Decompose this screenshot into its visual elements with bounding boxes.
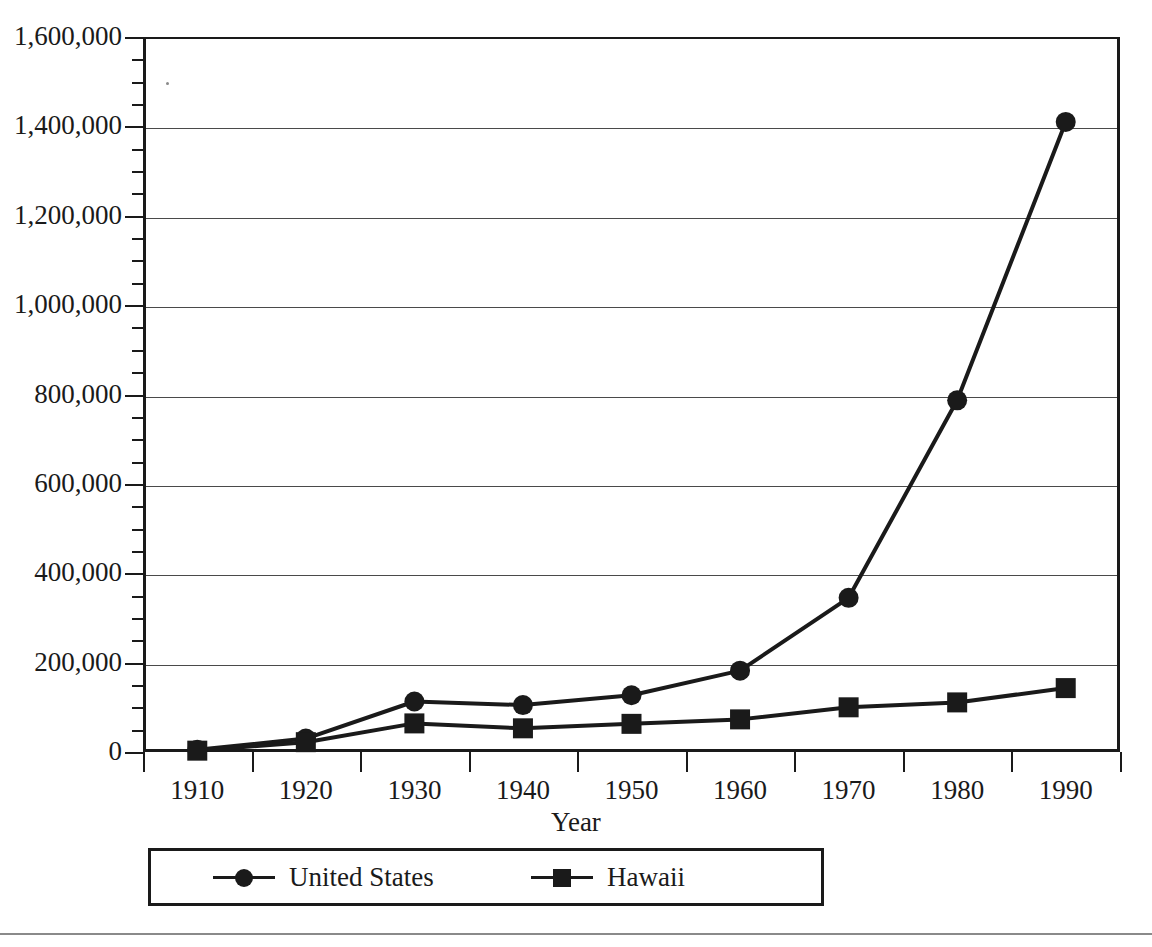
y-axis-minor-tick — [132, 238, 144, 240]
y-axis-minor-tick — [132, 104, 144, 106]
gridline — [146, 486, 1117, 487]
y-axis-minor-tick — [132, 596, 144, 598]
y-axis-minor-tick — [132, 618, 144, 620]
y-axis-minor-tick — [132, 529, 144, 531]
x-axis-tick — [794, 752, 796, 772]
y-axis-minor-tick — [132, 193, 144, 195]
legend-label: Hawaii — [607, 862, 685, 892]
y-axis-tick-label: 1,200,000 — [0, 202, 122, 229]
legend-label: United States — [289, 862, 434, 892]
gridline — [146, 575, 1117, 576]
y-axis-minor-tick — [132, 82, 144, 84]
y-axis-tick-label: 0 — [0, 738, 122, 765]
x-axis-tick — [1011, 752, 1013, 772]
x-axis-tick — [686, 752, 688, 772]
x-axis-tick — [1120, 752, 1122, 772]
x-axis-tick — [469, 752, 471, 772]
x-axis-title: Year — [0, 806, 1152, 838]
gridline — [146, 665, 1117, 666]
y-axis-major-tick — [125, 216, 144, 218]
scan-speck — [166, 82, 169, 85]
y-axis-major-tick — [125, 126, 144, 128]
x-axis-tick-label: 1940 — [469, 775, 578, 805]
x-axis-tick-label: 1920 — [252, 775, 361, 805]
gridline — [146, 218, 1117, 219]
page-bottom-rule — [0, 933, 1152, 935]
y-axis-major-tick — [125, 752, 144, 754]
y-axis-minor-tick — [132, 149, 144, 151]
x-axis-tick — [903, 752, 905, 772]
plot-area — [143, 37, 1120, 752]
x-axis-tick — [143, 752, 145, 772]
y-axis-major-tick — [125, 395, 144, 397]
gridline — [146, 307, 1117, 308]
x-axis-tick-label: 1960 — [686, 775, 795, 805]
square-marker-icon — [531, 865, 593, 889]
y-axis-tick-label: 1,000,000 — [0, 291, 122, 318]
x-axis-tick — [252, 752, 254, 772]
x-axis-tick — [360, 752, 362, 772]
y-axis-major-tick — [125, 663, 144, 665]
y-axis-minor-tick — [132, 350, 144, 352]
y-axis-minor-tick — [132, 59, 144, 61]
y-axis-major-tick — [125, 484, 144, 486]
legend-item-hawaii[interactable]: Hawaii — [531, 851, 685, 903]
y-axis-tick-label: 1,600,000 — [0, 23, 122, 50]
gridline — [146, 397, 1117, 398]
x-axis-tick-label: 1910 — [143, 775, 252, 805]
y-axis-tick-label: 1,400,000 — [0, 112, 122, 139]
y-axis-minor-tick — [132, 730, 144, 732]
y-axis-major-tick — [125, 573, 144, 575]
gridline — [146, 128, 1117, 129]
y-axis-minor-tick — [132, 640, 144, 642]
y-axis-major-tick — [125, 305, 144, 307]
x-axis-tick-label: 1950 — [577, 775, 686, 805]
x-axis-tick-label: 1990 — [1011, 775, 1120, 805]
y-axis-tick-label: 600,000 — [0, 470, 122, 497]
y-axis-minor-tick — [132, 171, 144, 173]
y-axis-tick-label: 400,000 — [0, 559, 122, 586]
line-chart-figure: 0200,000400,000600,000800,0001,000,0001,… — [0, 0, 1152, 947]
circle-marker-icon — [213, 865, 275, 889]
y-axis-minor-tick — [132, 260, 144, 262]
x-axis-tick-label: 1980 — [903, 775, 1012, 805]
y-axis-minor-tick — [132, 283, 144, 285]
y-axis-major-tick — [125, 37, 144, 39]
y-axis-minor-tick — [132, 462, 144, 464]
y-axis-tick-labels: 0200,000400,000600,000800,0001,000,0001,… — [0, 0, 122, 947]
x-axis-tick-label: 1970 — [794, 775, 903, 805]
y-axis-minor-tick — [132, 685, 144, 687]
y-axis-minor-tick — [132, 506, 144, 508]
y-axis-tick-label: 800,000 — [0, 381, 122, 408]
legend: United States Hawaii — [148, 848, 824, 906]
y-axis-tick-label: 200,000 — [0, 649, 122, 676]
x-axis-tick — [577, 752, 579, 772]
y-axis-minor-tick — [132, 439, 144, 441]
x-axis-tick-label: 1930 — [360, 775, 469, 805]
y-axis-minor-tick — [132, 327, 144, 329]
y-axis-minor-tick — [132, 707, 144, 709]
y-axis-minor-tick — [132, 551, 144, 553]
legend-item-united-states[interactable]: United States — [213, 851, 434, 903]
y-axis-minor-tick — [132, 372, 144, 374]
y-axis-minor-tick — [132, 417, 144, 419]
